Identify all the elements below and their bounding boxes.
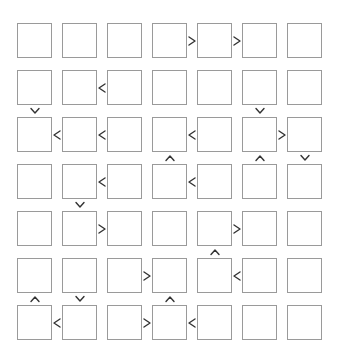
cell-r6-c3[interactable] <box>107 258 142 293</box>
cell-r3-c6[interactable] <box>242 117 277 152</box>
cell-r2-c3[interactable] <box>107 70 142 105</box>
futoshiki-board <box>0 0 339 358</box>
caret-up-icon <box>254 152 266 164</box>
cell-r6-c4[interactable] <box>152 258 187 293</box>
cell-r2-c6[interactable] <box>242 70 277 105</box>
cell-r1-c1[interactable] <box>17 23 52 58</box>
cell-r5-c5[interactable] <box>197 211 232 246</box>
cell-r6-c1[interactable] <box>17 258 52 293</box>
cell-r3-c4[interactable] <box>152 117 187 152</box>
cell-r7-c4[interactable] <box>152 305 187 340</box>
caret-down-icon <box>29 105 41 117</box>
caret-down-icon <box>74 199 86 211</box>
cell-r3-c1[interactable] <box>17 117 52 152</box>
cell-r3-c7[interactable] <box>287 117 322 152</box>
cell-r2-c7[interactable] <box>287 70 322 105</box>
cell-r4-c3[interactable] <box>107 164 142 199</box>
cell-r3-c5[interactable] <box>197 117 232 152</box>
cell-r5-c7[interactable] <box>287 211 322 246</box>
cell-r6-c6[interactable] <box>242 258 277 293</box>
cell-r1-c7[interactable] <box>287 23 322 58</box>
cell-r7-c1[interactable] <box>17 305 52 340</box>
cell-r3-c3[interactable] <box>107 117 142 152</box>
cell-r1-c5[interactable] <box>197 23 232 58</box>
caret-up-icon <box>209 246 221 258</box>
cell-r5-c3[interactable] <box>107 211 142 246</box>
cell-r7-c3[interactable] <box>107 305 142 340</box>
cell-r1-c4[interactable] <box>152 23 187 58</box>
cell-r5-c2[interactable] <box>62 211 97 246</box>
caret-up-icon <box>29 293 41 305</box>
cell-r3-c2[interactable] <box>62 117 97 152</box>
cell-r6-c7[interactable] <box>287 258 322 293</box>
cell-r7-c5[interactable] <box>197 305 232 340</box>
caret-down-icon <box>254 105 266 117</box>
cell-r2-c1[interactable] <box>17 70 52 105</box>
cell-r6-c5[interactable] <box>197 258 232 293</box>
cell-r2-c2[interactable] <box>62 70 97 105</box>
caret-down-icon <box>299 152 311 164</box>
cell-r2-c5[interactable] <box>197 70 232 105</box>
cell-r4-c5[interactable] <box>197 164 232 199</box>
cell-r4-c1[interactable] <box>17 164 52 199</box>
cell-r6-c2[interactable] <box>62 258 97 293</box>
caret-up-icon <box>164 152 176 164</box>
cell-r5-c6[interactable] <box>242 211 277 246</box>
cell-r7-c7[interactable] <box>287 305 322 340</box>
caret-down-icon <box>74 293 86 305</box>
cell-r5-c4[interactable] <box>152 211 187 246</box>
cell-r1-c2[interactable] <box>62 23 97 58</box>
cell-r4-c2[interactable] <box>62 164 97 199</box>
cell-r4-c7[interactable] <box>287 164 322 199</box>
cell-r7-c6[interactable] <box>242 305 277 340</box>
caret-up-icon <box>164 293 176 305</box>
cell-r4-c6[interactable] <box>242 164 277 199</box>
cell-r5-c1[interactable] <box>17 211 52 246</box>
cell-r1-c3[interactable] <box>107 23 142 58</box>
cell-r4-c4[interactable] <box>152 164 187 199</box>
cell-r7-c2[interactable] <box>62 305 97 340</box>
cell-r1-c6[interactable] <box>242 23 277 58</box>
cell-r2-c4[interactable] <box>152 70 187 105</box>
